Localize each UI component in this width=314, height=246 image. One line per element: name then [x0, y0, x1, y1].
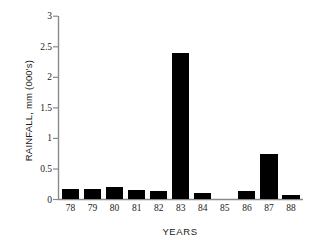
y-tick-label: 2.5: [40, 42, 52, 52]
x-tick-label: 84: [198, 203, 208, 213]
x-tick-label: 79: [88, 203, 98, 213]
bar-chart: 0 0.5 1 1.5 2 2.5 3 78798081828384858687…: [0, 0, 314, 246]
bar-82: [150, 191, 167, 200]
x-tick-label: 80: [110, 203, 120, 213]
bar-83: [172, 53, 189, 200]
x-tick-label: 82: [154, 203, 164, 213]
x-axis-title: YEARS: [58, 226, 302, 237]
y-tick-label: 0.5: [40, 164, 52, 174]
bar-79: [84, 189, 101, 199]
bar-88: [282, 195, 299, 199]
x-tick-label: 78: [66, 203, 76, 213]
bar-80: [106, 187, 123, 199]
y-tick-label: 0: [47, 195, 52, 205]
x-tick-label: 88: [286, 203, 296, 213]
x-tick-label: 86: [242, 203, 252, 213]
x-tick-label: 81: [132, 203, 142, 213]
x-tick-label: 87: [264, 203, 274, 213]
x-tick-label: 85: [220, 203, 230, 213]
y-axis-title: RAINFALL, mm (000's): [23, 31, 34, 191]
chart-screenshot: 0 0.5 1 1.5 2 2.5 3 78798081828384858687…: [0, 0, 314, 246]
bar-81: [128, 190, 145, 199]
bar-86: [238, 191, 255, 200]
y-tick-label: 2: [47, 72, 52, 82]
y-tick-label: 3: [47, 11, 52, 21]
bar-78: [62, 189, 79, 199]
y-tick-label: 1: [47, 133, 52, 143]
y-tick-label: 1.5: [40, 103, 52, 113]
bar-84: [194, 193, 211, 199]
x-tick-label: 83: [176, 203, 186, 213]
bar-87: [260, 154, 277, 200]
